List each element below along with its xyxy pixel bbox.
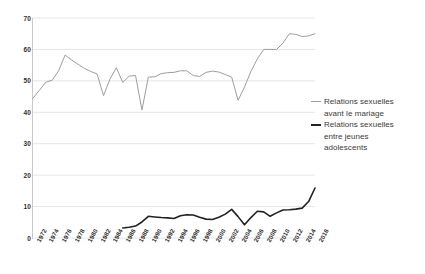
legend-item-teen[interactable]: Relations sexuelles entre jeunes adolesc…	[311, 119, 425, 154]
y-tick-label: 40	[2, 109, 31, 116]
chart-legend: Relations sexuelles avant le mariage Rel…	[311, 96, 425, 154]
plot-svg	[33, 18, 315, 238]
y-tick-label: 10	[2, 203, 31, 210]
plot-area	[33, 18, 315, 238]
x-tick-label: 2016	[317, 227, 330, 243]
y-tick-label: 70	[2, 15, 31, 22]
y-tick-label: 60	[2, 46, 31, 53]
y-axis: 706050403020100	[0, 0, 31, 274]
legend-item-teen-label: Relations sexuelles entre jeunes adolesc…	[324, 119, 394, 154]
series-layer	[33, 34, 315, 228]
legend-item-premarital[interactable]: Relations sexuelles avant le mariage	[311, 96, 425, 119]
thin-gray-line-icon	[311, 96, 321, 107]
thick-black-line-icon	[311, 119, 321, 130]
y-tick-label: 0	[2, 235, 31, 242]
series-line-premarital	[33, 34, 315, 110]
x-axis: 1972197419761978198019821984198619881990…	[33, 240, 323, 274]
series-line-teen	[123, 188, 315, 228]
gridlines	[33, 18, 315, 238]
legend-item-premarital-label: Relations sexuelles avant le mariage	[324, 96, 394, 119]
line-chart: 706050403020100 197219741976197819801982…	[0, 0, 425, 274]
y-tick-label: 50	[2, 77, 31, 84]
y-tick-label: 20	[2, 172, 31, 179]
y-tick-label: 30	[2, 140, 31, 147]
